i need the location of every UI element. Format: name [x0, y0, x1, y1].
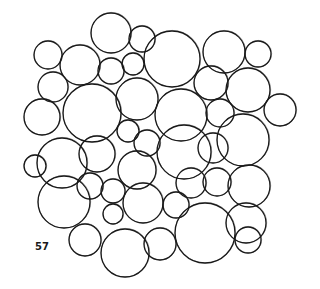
bubble-sketch-stroke [163, 191, 190, 218]
bubble-sketch-stroke [101, 178, 126, 203]
bubble-sketch-stroke [122, 52, 145, 75]
bubble-sketch-stroke [63, 83, 122, 142]
bubble-sketch-stroke [157, 124, 212, 179]
bubble-sketch-stroke [77, 172, 104, 199]
bubble-sketch-stroke [38, 71, 69, 102]
bubble-sketch-stroke [69, 223, 102, 256]
bubble-sketch-stroke [144, 30, 201, 87]
figure-number-label: 57 [35, 241, 49, 252]
bubble-sketch-stroke [24, 154, 47, 177]
bubble-sketch-stroke [24, 98, 61, 135]
bubble-sketch-stroke [245, 40, 272, 67]
bubble-sketch-stroke [144, 227, 177, 260]
bubble-sketch-stroke [228, 164, 271, 207]
bubble-sketch-stroke [116, 77, 159, 120]
bubble-sketch-stroke [129, 25, 156, 52]
bubble-sketch-stroke [117, 119, 140, 142]
bubble-sketch-stroke [91, 12, 132, 53]
bubble-cluster [24, 12, 297, 277]
bubble-sketch-stroke [103, 203, 124, 224]
bubble-sketch-stroke [194, 65, 229, 100]
bubble-sketch-stroke [34, 40, 63, 69]
bubble-sketch-stroke [264, 93, 297, 126]
bubble-sketch-stroke [98, 57, 125, 84]
bubble-sketch-stroke [101, 228, 150, 277]
bubble-sketch-stroke [206, 98, 235, 127]
bubble-sketch-stroke [203, 167, 232, 196]
bubble-sketch-stroke [38, 175, 91, 228]
bubble-sketch-stroke [198, 132, 229, 163]
